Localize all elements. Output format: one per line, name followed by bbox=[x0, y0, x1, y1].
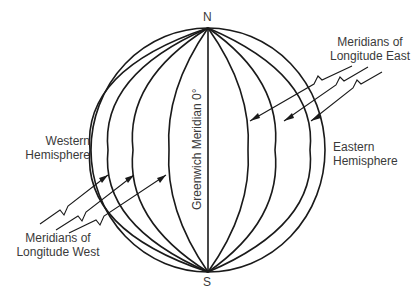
arrowhead-east-1 bbox=[250, 113, 260, 121]
north-pole-label: N bbox=[203, 10, 212, 24]
western-hemisphere-line-2: Hemisphere bbox=[24, 148, 90, 162]
arrowhead-west-3 bbox=[157, 175, 166, 183]
arrowhead-west-1 bbox=[99, 175, 108, 183]
meridian-east-3 bbox=[208, 28, 311, 272]
globe-diagram: N S Greenwich Meridian 0° Western Hemisp… bbox=[0, 0, 416, 298]
arrow-east-1 bbox=[250, 66, 352, 121]
eastern-hemisphere-label: Eastern Hemisphere bbox=[333, 140, 398, 168]
meridian-east-2 bbox=[208, 28, 276, 272]
western-hemisphere-line-1: Western bbox=[38, 134, 90, 148]
west-meridians-callout: Meridians of Longitude West bbox=[8, 231, 108, 259]
eastern-hemisphere-line-2: Hemisphere bbox=[333, 154, 398, 168]
arrow-west-3 bbox=[69, 175, 166, 233]
western-hemisphere-label: Western Hemisphere bbox=[38, 134, 90, 162]
arrow-west-1 bbox=[40, 175, 108, 224]
arrowhead-west-2 bbox=[125, 175, 134, 183]
eastern-hemisphere-line-1: Eastern bbox=[333, 140, 398, 154]
west-callout-line-2: Longitude West bbox=[8, 245, 108, 259]
greenwich-meridian-label: Greenwich Meridian 0° bbox=[190, 88, 204, 210]
east-callout-line-1: Meridians of bbox=[330, 35, 410, 49]
east-meridians-callout: Meridians of Longitude East bbox=[330, 35, 410, 63]
arrowhead-east-2 bbox=[284, 113, 294, 121]
east-callout-line-2: Longitude East bbox=[330, 49, 410, 63]
west-callout-line-1: Meridians of bbox=[8, 231, 108, 245]
south-pole-label: S bbox=[203, 275, 211, 289]
meridian-east-1 bbox=[208, 28, 248, 272]
